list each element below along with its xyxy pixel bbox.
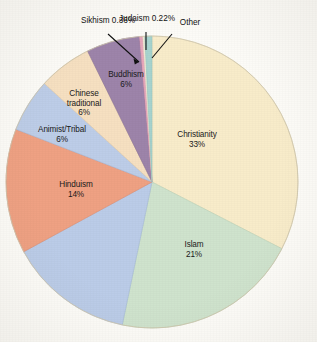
pie-chart-svg <box>0 0 317 342</box>
pie-chart: Christianity 33% Islam 21% Hinduism 14% … <box>0 0 317 342</box>
slice-label-judaism-name: Judaism <box>119 14 150 23</box>
slice-label-other: Other <box>180 18 200 28</box>
slice-label-judaism-value: 0.22% <box>152 14 175 23</box>
slice-label-sikhism-name: Sikhism <box>81 16 110 25</box>
slice-label-other-name: Other <box>180 18 200 27</box>
pie-slices <box>6 36 298 328</box>
slice-label-judaism: Judaism 0.22% <box>119 14 175 24</box>
